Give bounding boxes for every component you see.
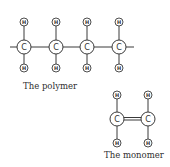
carbon-label: C bbox=[21, 43, 27, 52]
carbon-atom: C bbox=[17, 40, 31, 54]
monomer-carbon-unit-1: C H H bbox=[110, 91, 124, 147]
polymer-carbon-unit-2: C H H bbox=[49, 18, 63, 72]
monomer-carbon-unit-2: C H H bbox=[141, 91, 155, 147]
carbon-atom: C bbox=[112, 40, 126, 54]
polymer-carbon-unit-4: C H H bbox=[112, 18, 126, 72]
hydrogen-atom-bottom: H bbox=[144, 139, 152, 147]
polymer-structure: C H H C H H bbox=[10, 18, 134, 72]
polymer-carbon-unit-1: C H H bbox=[17, 18, 31, 72]
hydrogen-label: H bbox=[115, 92, 119, 98]
hydrogen-label: H bbox=[115, 140, 119, 146]
hydrogen-atom-top: H bbox=[52, 18, 60, 26]
carbon-atom: C bbox=[80, 40, 94, 54]
carbon-label: C bbox=[116, 43, 122, 52]
hydrogen-label: H bbox=[54, 19, 58, 25]
hydrogen-atom-top: H bbox=[115, 18, 123, 26]
carbon-label: C bbox=[114, 115, 120, 124]
hydrogen-atom-top: H bbox=[83, 18, 91, 26]
monomer-caption: The monomer bbox=[104, 150, 164, 160]
hydrogen-label: H bbox=[146, 92, 150, 98]
hydrogen-label: H bbox=[22, 19, 26, 25]
hydrogen-label: H bbox=[117, 65, 121, 71]
carbon-label: C bbox=[53, 43, 59, 52]
polymer-caption: The polymer bbox=[23, 81, 77, 91]
hydrogen-label: H bbox=[117, 19, 121, 25]
hydrogen-label: H bbox=[54, 65, 58, 71]
hydrogen-label: H bbox=[85, 19, 89, 25]
monomer-structure: C H H C H H bbox=[110, 91, 155, 147]
carbon-label: C bbox=[84, 43, 90, 52]
carbon-label: C bbox=[145, 115, 151, 124]
hydrogen-label: H bbox=[146, 140, 150, 146]
polymer-carbon-unit-3: C H H bbox=[80, 18, 94, 72]
hydrogen-label: H bbox=[85, 65, 89, 71]
hydrogen-atom-bottom: H bbox=[20, 64, 28, 72]
carbon-atom: C bbox=[49, 40, 63, 54]
hydrogen-atom-bottom: H bbox=[83, 64, 91, 72]
hydrogen-atom-bottom: H bbox=[113, 139, 121, 147]
hydrogen-atom-top: H bbox=[113, 91, 121, 99]
hydrogen-atom-bottom: H bbox=[115, 64, 123, 72]
hydrogen-label: H bbox=[22, 65, 26, 71]
hydrogen-atom-top: H bbox=[20, 18, 28, 26]
carbon-atom: C bbox=[110, 112, 124, 126]
hydrogen-atom-top: H bbox=[144, 91, 152, 99]
carbon-atom: C bbox=[141, 112, 155, 126]
hydrogen-atom-bottom: H bbox=[52, 64, 60, 72]
